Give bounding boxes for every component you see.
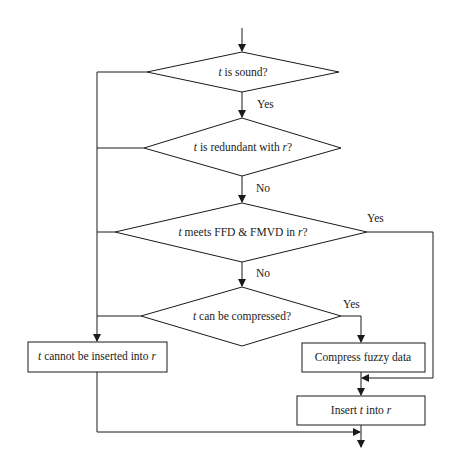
arrow-compress-yes [341, 316, 361, 342]
process-label-compress: Compress fuzzy data [315, 352, 411, 364]
decision-label-meets: t meets FFD & FMVD in r? [178, 227, 307, 239]
edge-label-compress-yes: Yes [343, 299, 360, 311]
var-r: r [387, 404, 391, 416]
arrow-reject-to-merge [97, 372, 360, 432]
edge-label-redundant-no: No [256, 183, 270, 195]
var-r: r [151, 350, 155, 362]
edge-label-meets-no: No [256, 268, 270, 280]
decision-label-sound: t is sound? [218, 67, 267, 79]
process-label-reject: t cannot be inserted into r [38, 351, 156, 363]
edge-label-sound-yes: Yes [257, 99, 274, 111]
process-label-insert: Insert t into r [331, 405, 391, 417]
decision-label-redundant: t is redundant with r? [194, 142, 292, 154]
left-trunk-line [97, 72, 147, 341]
edge-label-meets-yes: Yes [367, 213, 384, 225]
decision-label-compress: t can be compressed? [193, 311, 291, 323]
